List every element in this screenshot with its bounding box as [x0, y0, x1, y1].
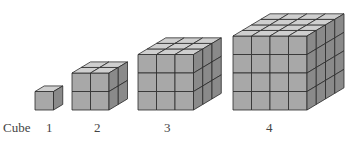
row-label: Cube — [3, 120, 30, 136]
cube-label-2: 2 — [94, 120, 101, 136]
cube-label-1: 1 — [46, 120, 53, 136]
cube-diagram — [0, 0, 357, 142]
cube-3 — [138, 38, 221, 110]
cube-4 — [233, 14, 344, 110]
cube-label-4: 4 — [266, 120, 273, 136]
cube-2 — [72, 62, 128, 110]
cube-label-3: 3 — [164, 120, 171, 136]
cube-1 — [35, 86, 63, 110]
